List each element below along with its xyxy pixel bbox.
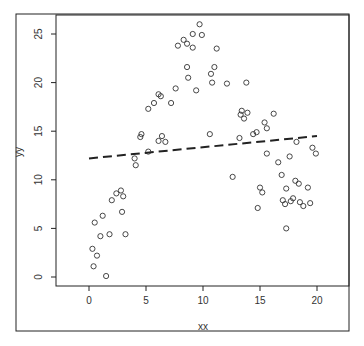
data-point <box>208 71 213 76</box>
data-point <box>255 205 260 210</box>
data-point <box>197 22 202 27</box>
data-point <box>294 139 299 144</box>
data-point <box>107 232 112 237</box>
data-point <box>212 64 217 69</box>
data-point <box>282 202 287 207</box>
data-point <box>190 31 195 36</box>
y-tick-label: 25 <box>33 28 44 40</box>
data-point <box>118 188 123 193</box>
data-point <box>305 185 310 190</box>
data-point <box>245 110 250 115</box>
data-point <box>301 203 306 208</box>
data-point <box>257 185 262 190</box>
data-point <box>271 111 276 116</box>
data-point <box>284 186 289 191</box>
y-tick-label: 0 <box>33 274 44 280</box>
data-point <box>100 213 105 218</box>
y-tick-label: 10 <box>33 174 44 186</box>
data-point <box>237 135 242 140</box>
data-point <box>241 116 246 121</box>
data-point <box>98 234 103 239</box>
data-point <box>293 178 298 183</box>
data-point <box>168 100 173 105</box>
data-point <box>109 198 114 203</box>
figure-border <box>16 14 349 331</box>
data-point <box>175 43 180 48</box>
data-point <box>262 120 267 125</box>
data-point <box>151 100 156 105</box>
data-point <box>279 172 284 177</box>
data-point <box>230 174 235 179</box>
data-point <box>119 209 124 214</box>
data-point <box>104 273 109 278</box>
data-point <box>94 253 99 258</box>
data-point <box>190 45 195 50</box>
y-tick-label: 15 <box>33 125 44 137</box>
data-point <box>224 81 229 86</box>
data-point <box>214 46 219 51</box>
plot-canvas: 05101520 0510152025 xx yy <box>0 0 364 346</box>
y-tick-label: 20 <box>33 77 44 89</box>
y-tick-label: 5 <box>33 225 44 231</box>
data-point <box>313 151 318 156</box>
data-point <box>284 226 289 231</box>
data-point <box>163 139 168 144</box>
x-axis-label: xx <box>198 321 208 332</box>
data-point <box>199 32 204 37</box>
data-point <box>296 181 301 186</box>
data-point <box>132 156 137 161</box>
x-tick-label: 20 <box>311 295 323 306</box>
data-point <box>133 163 138 168</box>
data-point <box>280 198 285 203</box>
x-tick-label: 5 <box>143 295 149 306</box>
x-tick-label: 15 <box>254 295 266 306</box>
data-point <box>194 88 199 93</box>
data-point <box>287 154 292 159</box>
data-points <box>90 22 319 279</box>
data-point <box>121 194 126 199</box>
data-point <box>173 86 178 91</box>
data-point <box>184 41 189 46</box>
data-point <box>264 151 269 156</box>
data-point <box>260 190 265 195</box>
data-point <box>276 160 281 165</box>
x-tick-label: 0 <box>86 295 92 306</box>
data-point <box>308 201 313 206</box>
data-point <box>91 264 96 269</box>
data-point <box>186 75 191 80</box>
y-axis: 0510152025 <box>33 28 56 280</box>
data-point <box>184 64 189 69</box>
x-axis: 05101520 <box>86 286 323 306</box>
data-point <box>264 126 269 131</box>
plot-frame <box>56 15 349 286</box>
regression-line <box>89 136 317 158</box>
data-point <box>310 145 315 150</box>
data-point <box>156 138 161 143</box>
scatter-chart: 05101520 0510152025 xx yy <box>0 0 364 346</box>
data-point <box>90 246 95 251</box>
x-tick-label: 10 <box>197 295 209 306</box>
data-point <box>146 106 151 111</box>
data-point <box>92 220 97 225</box>
data-point <box>159 133 164 138</box>
data-point <box>123 232 128 237</box>
y-axis-label: yy <box>13 147 24 157</box>
data-point <box>244 80 249 85</box>
data-point <box>207 132 212 137</box>
data-point <box>210 80 215 85</box>
